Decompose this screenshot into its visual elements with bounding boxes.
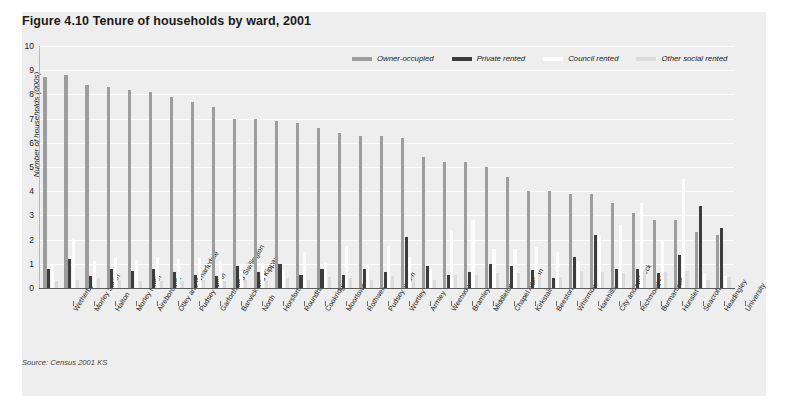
bar-owner-occupied[interactable] xyxy=(275,121,278,288)
bar-private-rented[interactable] xyxy=(531,270,534,288)
bar-private-rented[interactable] xyxy=(573,257,576,288)
bar-council-rented[interactable] xyxy=(450,230,453,288)
ward-bar-group[interactable] xyxy=(632,46,646,288)
bar-private-rented[interactable] xyxy=(384,272,387,288)
bar-other-social-rented[interactable] xyxy=(307,280,310,288)
ward-bar-group[interactable] xyxy=(317,46,331,288)
bar-council-rented[interactable] xyxy=(387,246,390,288)
bar-other-social-rented[interactable] xyxy=(265,281,268,288)
bar-owner-occupied[interactable] xyxy=(191,102,194,288)
ward-bar-group[interactable] xyxy=(380,46,394,288)
bar-owner-occupied[interactable] xyxy=(254,119,257,288)
bar-council-rented[interactable] xyxy=(156,257,159,288)
bar-other-social-rented[interactable] xyxy=(412,277,415,288)
bar-council-rented[interactable] xyxy=(219,261,222,288)
ward-bar-group[interactable] xyxy=(212,46,226,288)
bar-private-rented[interactable] xyxy=(657,273,660,288)
bar-owner-occupied[interactable] xyxy=(695,232,698,288)
bar-other-social-rented[interactable] xyxy=(433,280,436,288)
bar-private-rented[interactable] xyxy=(447,275,450,288)
bar-owner-occupied[interactable] xyxy=(128,90,131,288)
bar-council-rented[interactable] xyxy=(303,252,306,288)
bar-other-social-rented[interactable] xyxy=(622,273,625,288)
bar-other-social-rented[interactable] xyxy=(328,277,331,288)
bar-other-social-rented[interactable] xyxy=(727,277,730,288)
bar-council-rented[interactable] xyxy=(535,247,538,288)
bar-owner-occupied[interactable] xyxy=(296,123,299,288)
ward-bar-group[interactable] xyxy=(191,46,205,288)
ward-bar-group[interactable] xyxy=(443,46,457,288)
bar-council-rented[interactable] xyxy=(198,258,201,288)
bar-council-rented[interactable] xyxy=(177,259,180,288)
ward-bar-group[interactable] xyxy=(107,46,121,288)
bar-private-rented[interactable] xyxy=(426,266,429,288)
bar-council-rented[interactable] xyxy=(282,270,285,288)
ward-bar-group[interactable] xyxy=(338,46,352,288)
ward-bar-group[interactable] xyxy=(485,46,499,288)
bar-owner-occupied[interactable] xyxy=(107,87,110,288)
bar-owner-occupied[interactable] xyxy=(632,213,635,288)
bar-owner-occupied[interactable] xyxy=(338,133,341,288)
bar-private-rented[interactable] xyxy=(699,206,702,288)
ward-bar-group[interactable] xyxy=(569,46,583,288)
bar-other-social-rented[interactable] xyxy=(76,280,79,288)
bar-other-social-rented[interactable] xyxy=(538,275,541,288)
bar-owner-occupied[interactable] xyxy=(422,157,425,288)
bar-owner-occupied[interactable] xyxy=(43,77,46,288)
bar-other-social-rented[interactable] xyxy=(454,275,457,288)
bar-private-rented[interactable] xyxy=(47,269,50,288)
bar-private-rented[interactable] xyxy=(510,266,513,288)
ward-bar-group[interactable] xyxy=(85,46,99,288)
bar-other-social-rented[interactable] xyxy=(55,281,58,288)
bar-council-rented[interactable] xyxy=(261,263,264,288)
bar-owner-occupied[interactable] xyxy=(464,162,467,288)
bar-council-rented[interactable] xyxy=(682,179,685,288)
bar-council-rented[interactable] xyxy=(135,260,138,288)
bar-other-social-rented[interactable] xyxy=(475,275,478,288)
bar-private-rented[interactable] xyxy=(194,275,197,288)
bar-private-rented[interactable] xyxy=(89,276,92,288)
bar-other-social-rented[interactable] xyxy=(664,272,667,288)
bar-private-rented[interactable] xyxy=(152,269,155,288)
bar-council-rented[interactable] xyxy=(661,240,664,288)
ward-bar-group[interactable] xyxy=(653,46,667,288)
bar-private-rented[interactable] xyxy=(299,275,302,288)
bar-owner-occupied[interactable] xyxy=(233,119,236,288)
bar-private-rented[interactable] xyxy=(131,271,134,288)
ward-bar-group[interactable] xyxy=(128,46,142,288)
bar-owner-occupied[interactable] xyxy=(170,97,173,288)
bar-council-rented[interactable] xyxy=(513,249,516,288)
bar-other-social-rented[interactable] xyxy=(202,280,205,288)
bar-owner-occupied[interactable] xyxy=(716,235,719,288)
bar-other-social-rented[interactable] xyxy=(160,281,163,288)
bar-other-social-rented[interactable] xyxy=(496,273,499,288)
bar-owner-occupied[interactable] xyxy=(569,194,572,288)
bar-owner-occupied[interactable] xyxy=(380,136,383,288)
bar-owner-occupied[interactable] xyxy=(401,138,404,288)
bar-other-social-rented[interactable] xyxy=(97,278,100,288)
bar-owner-occupied[interactable] xyxy=(317,128,320,288)
bar-other-social-rented[interactable] xyxy=(370,280,373,288)
ward-bar-group[interactable] xyxy=(695,46,709,288)
bar-private-rented[interactable] xyxy=(257,272,260,288)
bar-private-rented[interactable] xyxy=(320,269,323,288)
bar-private-rented[interactable] xyxy=(405,237,408,288)
bar-other-social-rented[interactable] xyxy=(559,277,562,288)
bar-owner-occupied[interactable] xyxy=(590,194,593,288)
bar-council-rented[interactable] xyxy=(492,249,495,288)
bar-private-rented[interactable] xyxy=(236,266,239,288)
bar-owner-occupied[interactable] xyxy=(85,85,88,288)
ward-bar-group[interactable] xyxy=(254,46,268,288)
bar-other-social-rented[interactable] xyxy=(139,281,142,288)
bar-council-rented[interactable] xyxy=(640,203,643,288)
bar-council-rented[interactable] xyxy=(408,257,411,288)
bar-other-social-rented[interactable] xyxy=(580,271,583,288)
ward-bar-group[interactable] xyxy=(527,46,541,288)
ward-bar-group[interactable] xyxy=(149,46,163,288)
bar-owner-occupied[interactable] xyxy=(611,203,614,288)
bar-owner-occupied[interactable] xyxy=(485,167,488,288)
bar-private-rented[interactable] xyxy=(552,278,555,288)
bar-council-rented[interactable] xyxy=(240,265,243,288)
bar-council-rented[interactable] xyxy=(703,273,706,288)
bar-council-rented[interactable] xyxy=(366,264,369,288)
